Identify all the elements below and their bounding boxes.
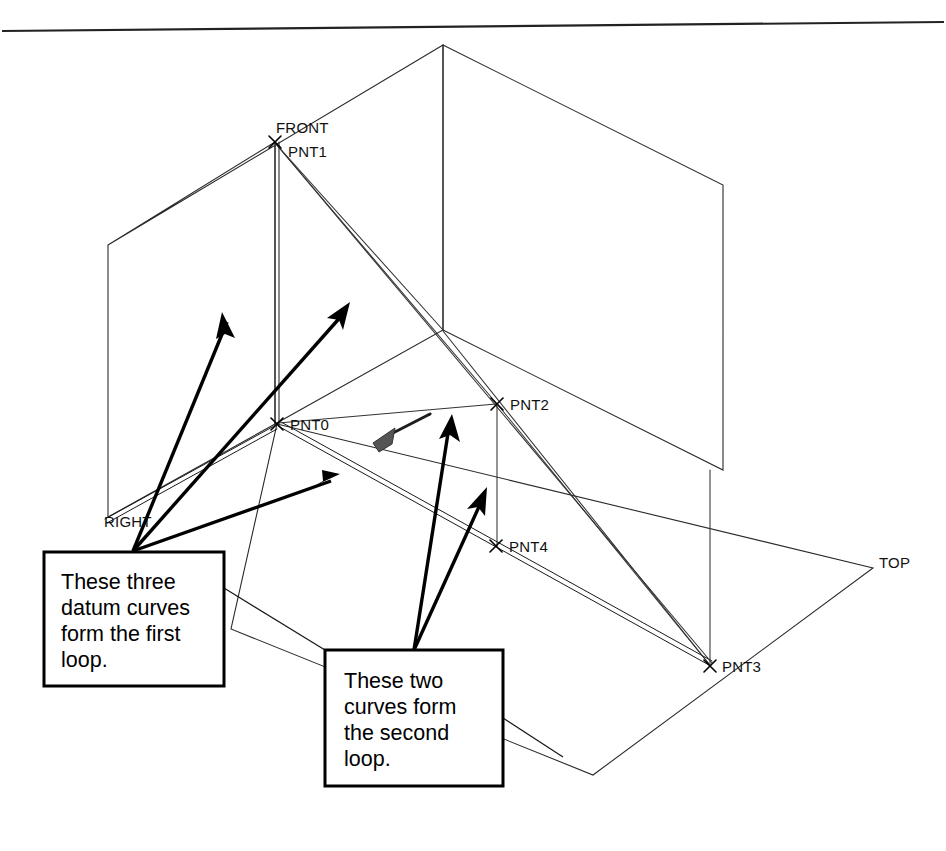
pnt2-label: PNT2 (510, 396, 549, 413)
pnt0-label: PNT0 (290, 416, 329, 433)
mouse-pointer-icon (373, 414, 430, 452)
front-plane-label: FRONT (276, 119, 329, 136)
pnt3-label: PNT3 (722, 658, 761, 675)
loop1-curve-b1 (278, 426, 709, 665)
diagram-svg: FRONT RIGHT TOP PNT1 PNT0 PNT2 PNT4 PNT3 (0, 0, 946, 851)
second-loop-callout-line-1: These two (344, 669, 443, 693)
right-plane-outline (443, 45, 723, 470)
second-loop-callout[interactable]: These two curves form the second loop. (325, 650, 503, 786)
second-loop-callout-line-2: curves form (344, 695, 456, 719)
pnt4-label: PNT4 (509, 538, 548, 555)
page-top-rule (2, 22, 944, 31)
curve-pnt1-to-right-plane-corner (276, 144, 443, 330)
first-loop-callout-line-2: datum curves (61, 596, 190, 620)
cad-diagram-canvas: FRONT RIGHT TOP PNT1 PNT0 PNT2 PNT4 PNT3 (0, 0, 946, 851)
second-loop-arrows (414, 414, 487, 650)
top-plane-label: TOP (879, 554, 910, 571)
curve-pnt1-to-pnt2 (276, 144, 497, 404)
pnt4-marker (490, 540, 502, 552)
first-loop-callout-line-1: These three (61, 570, 176, 594)
second-loop-callout-line-3: the second (344, 721, 449, 745)
first-loop-callout-line-3: form the first (61, 622, 180, 646)
second-loop-callout-line-4: loop. (344, 747, 391, 771)
pnt1-label: PNT1 (288, 143, 327, 160)
pnt0-marker (271, 418, 283, 430)
first-loop-callout-line-4: loop. (61, 648, 108, 672)
loop1-curve-a1 (105, 425, 276, 519)
first-loop-callout[interactable]: These three datum curves form the first … (44, 552, 224, 686)
first-callout-leader (224, 588, 325, 650)
